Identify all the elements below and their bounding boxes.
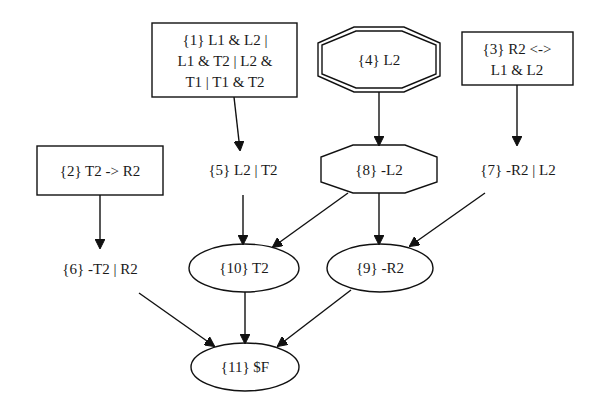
node-5-label: {5} L2 | T2 (208, 162, 277, 178)
node-6-label: {6} -T2 | R2 (62, 261, 137, 277)
node-1-label-line-3: T1 | T1 & T2 (185, 74, 264, 90)
node-3-label-line-1: {3} R2 <-> (483, 41, 552, 57)
edge-7-to-9 (410, 193, 485, 246)
node-7-label: {7} -R2 | L2 (480, 162, 555, 178)
node-8: {8} -L2 (321, 145, 437, 193)
node-7: {7} -R2 | L2 (480, 162, 555, 178)
node-1: {1} L1 & L2 | L1 & T2 | L2 & T1 | T1 & T… (152, 23, 297, 97)
node-8-label: {8} -L2 (355, 162, 402, 178)
edges (100, 85, 517, 346)
node-10: {10} T2 (189, 244, 299, 292)
node-11-label: {11} $F (221, 359, 269, 375)
node-5: {5} L2 | T2 (208, 162, 277, 178)
node-9-label: {9} -R2 (356, 260, 404, 276)
node-1-label-line-1: {1} L1 & L2 | (183, 32, 268, 48)
node-4-label: {4} L2 (358, 52, 400, 68)
edge-8-to-10 (273, 193, 348, 247)
node-3-label-line-2: L1 & L2 (491, 62, 544, 78)
node-2: {2} T2 -> R2 (37, 146, 163, 195)
edge-9-to-11 (278, 290, 351, 346)
edge-6-to-11 (139, 293, 214, 346)
node-11: {11} $F (191, 343, 299, 391)
node-9: {9} -R2 (327, 244, 433, 292)
edge-1-to-5 (234, 97, 240, 150)
node-10-label: {10} T2 (219, 260, 269, 276)
resolution-graph: {1} L1 & L2 | L1 & T2 | L2 & T1 | T1 & T… (0, 0, 603, 412)
node-2-label: {2} T2 -> R2 (60, 163, 141, 179)
node-4: {4} L2 (318, 27, 440, 92)
node-6: {6} -T2 | R2 (62, 261, 137, 277)
node-1-label-line-2: L1 & T2 | L2 & (178, 53, 273, 69)
node-3: {3} R2 <-> L1 & L2 (462, 32, 573, 85)
